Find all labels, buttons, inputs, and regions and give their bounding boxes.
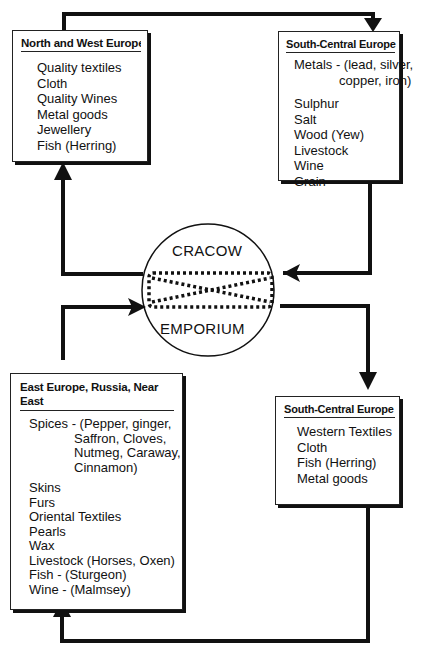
- list-item: Nutmeg, Caraway,: [29, 446, 182, 461]
- list-item: Metal goods: [297, 471, 399, 487]
- list-item: Quality textiles: [37, 60, 147, 76]
- list-item: Livestock (Horses, Oxen): [29, 554, 182, 569]
- box-title-line: East Europe, Russia, Near: [20, 381, 158, 393]
- list-item: Fish - (Sturgeon): [29, 568, 182, 583]
- arrow-down-icon: [359, 372, 377, 390]
- list-item: Pearls: [29, 525, 182, 540]
- center-label-top: CRACOW: [172, 242, 242, 259]
- box-title: East Europe, Russia, Near East: [20, 380, 174, 411]
- list-item: Salt: [294, 112, 399, 128]
- box-title: South-Central Europe: [284, 403, 395, 418]
- list-item: Grain: [294, 174, 399, 190]
- flow-east-to-cracow: [63, 307, 135, 360]
- list-item: Fish (Herring): [37, 138, 147, 154]
- box-east-europe-russia: East Europe, Russia, Near East Spices - …: [10, 373, 183, 610]
- list-item: Cloth: [37, 76, 147, 92]
- box-south-central-europe-top: South-Central Europe Metals - (lead, sil…: [278, 31, 400, 181]
- box-title: South-Central Europe: [286, 38, 395, 53]
- box-title: North and West Europe: [21, 37, 141, 52]
- list-item: Furs: [29, 496, 182, 511]
- center-label-bottom: EMPORIUM: [160, 320, 245, 337]
- list-item: Fish (Herring): [297, 455, 399, 471]
- list-item: Cinnamon): [29, 461, 182, 476]
- list-item: Skins: [29, 481, 182, 496]
- arrow-up-icon: [54, 162, 72, 180]
- list-item: Sulphur: [294, 96, 399, 112]
- list-item: Livestock: [294, 143, 399, 159]
- arrow-down-icon: [364, 18, 382, 32]
- box-south-central-europe-bottom: South-Central Europe Western Textiles Cl…: [275, 396, 400, 505]
- list-item: Wood (Yew): [294, 127, 399, 143]
- box-north-west-europe: North and West Europe Quality textiles C…: [12, 30, 148, 162]
- list-item: copper, iron): [294, 73, 399, 89]
- list-item: Spices - (Pepper, ginger,: [29, 417, 182, 432]
- list-item: Metals - (lead, silver,: [294, 57, 399, 73]
- list-item: Oriental Textiles: [29, 510, 182, 525]
- list-item: Wine: [294, 158, 399, 174]
- list-item: Metal goods: [37, 107, 147, 123]
- list-item: Saffron, Cloves,: [29, 432, 182, 447]
- list-item: Jewellery: [37, 122, 147, 138]
- list-item: Wine - (Malmsey): [29, 583, 182, 598]
- list-item: Quality Wines: [37, 91, 147, 107]
- list-item: Wax: [29, 539, 182, 554]
- flow-cracow-to-sc2: [280, 306, 368, 380]
- flow-cracow-to-nw: [63, 170, 143, 274]
- box-title-line: East: [20, 395, 44, 407]
- list-item: Cloth: [297, 440, 399, 456]
- list-item: Western Textiles: [297, 424, 399, 440]
